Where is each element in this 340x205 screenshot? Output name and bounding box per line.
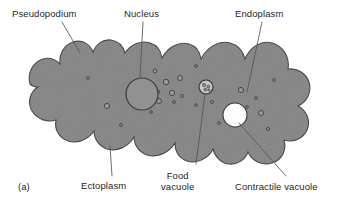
granule [246,106,249,109]
food-vacuole-particle [204,88,207,91]
amoeba-cell-body [29,40,310,164]
food-vacuole-particle [208,89,210,91]
granule [150,111,153,114]
label-nucleus: Nucleus [124,8,159,19]
granule [173,101,176,104]
amoeba-body-group [29,40,310,164]
food-vacuole [199,80,213,94]
food-vacuole-structure [199,80,213,94]
amoeba-figure: Pseudopodium Nucleus Endoplasm Ectoplasm… [0,0,340,205]
label-contractile-vacuole: Contractile vacuole [235,181,318,192]
granule [218,122,221,125]
label-endoplasm: Endoplasm [235,8,283,19]
granule [255,97,258,100]
nucleus [126,78,158,110]
label-ectoplasm: Ectoplasm [81,180,126,191]
contractile-vacuole-structure [223,103,247,127]
panel-tag: (a) [18,181,30,192]
granule [195,65,198,68]
granule [104,103,109,108]
granule [267,128,270,131]
food-vacuole-particle [202,83,205,86]
granule [195,104,198,107]
granule [178,76,183,81]
ectoplasm-leader-line [110,146,112,176]
granule [180,94,183,97]
granule [87,77,90,80]
label-food-vacuole: Food vacuole [161,170,194,192]
granule [259,111,264,116]
nucleus-structure [126,78,158,110]
granule [211,101,214,104]
granule [238,87,243,92]
food-vacuole-particle [207,85,210,88]
granule [120,124,123,127]
granule [163,79,169,85]
granule [273,79,276,82]
label-pseudopodium: Pseudopodium [12,8,77,19]
granule [169,90,174,95]
contractile-vacuole [223,103,247,127]
granule [153,69,157,73]
